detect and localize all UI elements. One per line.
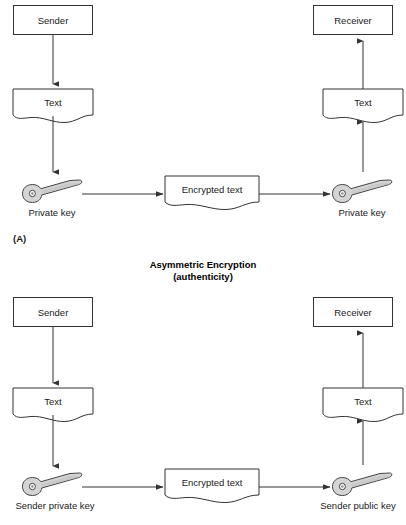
panel-a-receiver-text-label: Text	[354, 97, 372, 108]
panel-b-sender-text-label: Text	[44, 396, 62, 407]
panel-b-receiver-text-doc: Text	[323, 388, 403, 422]
panel-b-sender-label: Sender	[38, 307, 69, 318]
panel-b-sender-key-label: Sender private key	[15, 500, 94, 511]
encryption-diagram: Sender Text Private key Encrypted text P…	[0, 0, 406, 525]
panel-a-receiver-key-label: Private key	[339, 207, 386, 218]
panel-a-tag: (A)	[13, 233, 26, 244]
figure-title-line-1: Asymmetric Encryption	[150, 259, 257, 270]
panel-b-receiver-key-icon	[333, 473, 392, 496]
panel-b-receiver-box: Receiver	[314, 298, 393, 327]
panel-a-receiver-key-icon	[333, 180, 392, 203]
panel-b-encrypted-label: Encrypted text	[182, 477, 243, 488]
panel-a-receiver-label: Receiver	[334, 15, 372, 26]
panel-b-sender-key-icon	[23, 473, 82, 496]
panel-a-receiver-text-doc: Text	[323, 89, 403, 123]
panel-a-sender-text-label: Text	[44, 97, 62, 108]
panel-a-encrypted-label: Encrypted text	[182, 184, 243, 195]
panel-b-receiver-label: Receiver	[334, 307, 372, 318]
panel-a-encrypted-doc: Encrypted text	[165, 176, 259, 210]
panel-b-encrypted-doc: Encrypted text	[165, 469, 259, 503]
panel-b-sender-box: Sender	[14, 298, 93, 327]
panel-b-receiver-key-label: Sender public key	[320, 500, 396, 511]
panel-a-sender-key-label: Private key	[29, 207, 76, 218]
panel-a-receiver-box: Receiver	[314, 6, 393, 35]
figure-title-line-2: (authenticity)	[173, 271, 233, 282]
panel-a-sender-box: Sender	[14, 6, 93, 35]
panel-b-receiver-text-label: Text	[354, 396, 372, 407]
panel-a-sender-label: Sender	[38, 15, 69, 26]
panel-a-sender-key-icon	[23, 180, 82, 203]
